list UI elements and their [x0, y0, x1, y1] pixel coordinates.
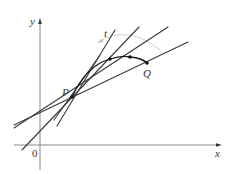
origin-label: 0	[32, 147, 38, 159]
point-p-label: P	[61, 86, 69, 98]
point-q	[145, 61, 149, 65]
secant-tangent-diagram: y x 0 P Q t	[0, 0, 230, 174]
curve	[72, 56, 147, 97]
tangent-line-t	[57, 30, 115, 126]
y-axis-label: y	[29, 15, 35, 27]
axes	[14, 18, 222, 170]
y-axis-arrow-icon	[38, 18, 42, 24]
point-q1	[108, 57, 112, 61]
point-q2	[128, 55, 132, 59]
point-q-label: Q	[143, 67, 151, 79]
x-axis-label: x	[214, 147, 220, 159]
point-p	[70, 95, 74, 99]
